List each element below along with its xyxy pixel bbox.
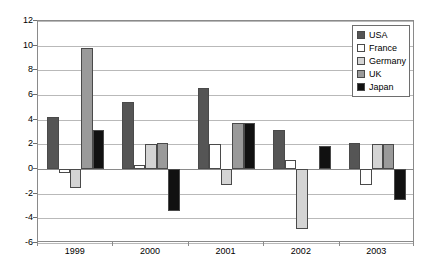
legend-item-uk: UK (357, 68, 406, 80)
bar-japan-2001 (244, 123, 255, 169)
bar-uk-2000 (157, 143, 168, 169)
bar-france-2001 (209, 144, 220, 169)
legend-item-japan: Japan (357, 81, 406, 93)
bar-japan-1999 (93, 130, 104, 169)
legend-item-germany: Germany (357, 55, 406, 67)
x-tick-label-2001: 2001 (188, 246, 263, 256)
legend-swatch-germany (357, 57, 365, 65)
legend-label: USA (369, 30, 388, 40)
legend-swatch-france (357, 44, 365, 52)
legend-label: France (369, 43, 397, 53)
bar-usa-2002 (273, 130, 284, 169)
bar-usa-2000 (122, 102, 133, 169)
bar-japan-2003 (394, 169, 405, 200)
bar-france-2000 (134, 165, 145, 169)
bar-germany-2003 (372, 144, 383, 169)
legend-swatch-uk (357, 70, 365, 78)
bar-germany-1999 (70, 169, 81, 188)
legend-label: Germany (369, 56, 406, 66)
x-tick-label-2003: 2003 (339, 246, 414, 256)
legend-swatch-japan (357, 83, 365, 91)
y-axis-tick-marks (0, 20, 37, 242)
bar-japan-2002 (319, 146, 330, 169)
bar-usa-1999 (47, 117, 58, 169)
bar-france-2002 (285, 160, 296, 169)
legend-item-usa: USA (357, 29, 406, 41)
bar-germany-2000 (145, 144, 156, 169)
bar-france-2003 (360, 169, 371, 185)
bar-germany-2002 (296, 169, 307, 229)
x-tick-label-2000: 2000 (112, 246, 187, 256)
legend-swatch-usa (357, 31, 365, 39)
bar-chart: 121086420-2-4-6 19992000200120022003 USA… (0, 0, 429, 275)
chart-legend: USAFranceGermanyUKJapan (352, 25, 410, 97)
bar-uk-1999 (81, 48, 92, 169)
bar-usa-2001 (198, 88, 209, 169)
bar-uk-2001 (232, 123, 243, 169)
legend-item-france: France (357, 42, 406, 54)
bar-uk-2003 (383, 144, 394, 169)
legend-label: Japan (369, 82, 394, 92)
bar-japan-2000 (168, 169, 179, 211)
x-tick-label-2002: 2002 (263, 246, 338, 256)
legend-label: UK (369, 69, 382, 79)
x-tick-label-1999: 1999 (37, 246, 112, 256)
x-axis: 19992000200120022003 (37, 246, 414, 262)
bar-france-1999 (59, 169, 70, 173)
bar-usa-2003 (349, 143, 360, 169)
bar-germany-2001 (221, 169, 232, 185)
